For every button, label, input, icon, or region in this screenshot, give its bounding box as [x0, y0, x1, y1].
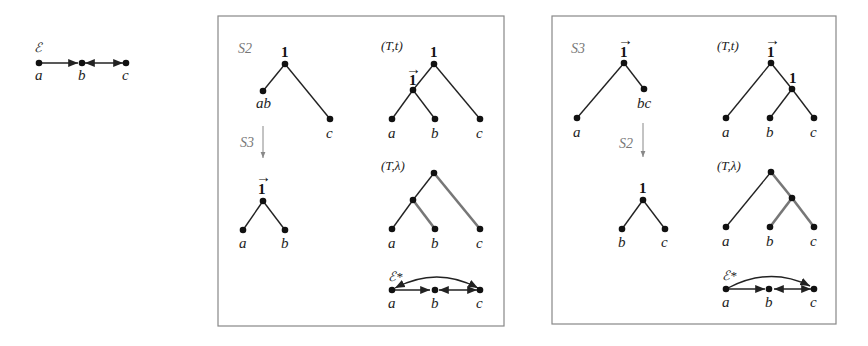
label-a: a [388, 295, 396, 311]
label-c: c [810, 294, 817, 310]
colored-edge-inner-b [413, 200, 435, 229]
edge [726, 63, 771, 118]
label-a: a [722, 233, 730, 249]
tree-inner [410, 197, 417, 204]
stage-label-first: S2 [238, 41, 252, 56]
estar-title: ℰ* [722, 268, 737, 283]
edge [643, 200, 665, 229]
label-bc: bc [637, 95, 652, 111]
label-a: a [722, 294, 730, 310]
graph-e: ℰ a b c [34, 40, 129, 83]
label-b: b [431, 295, 439, 311]
label-c: c [476, 295, 483, 311]
edge [726, 172, 771, 227]
label-c: c [661, 234, 668, 250]
node-b [432, 287, 439, 294]
tt-title: (T,t) [717, 38, 739, 53]
tree-node-a [240, 227, 247, 234]
tree-node-ab [260, 88, 267, 95]
edge [243, 201, 263, 230]
tree-leaf-c [811, 115, 818, 122]
tree-leaf-b [432, 226, 439, 233]
label-a: a [573, 124, 581, 140]
edge [392, 90, 413, 119]
root-label: 1 [281, 44, 289, 60]
label-b: b [766, 233, 774, 249]
label-ab: ab [256, 95, 272, 111]
panel-right-border [552, 16, 836, 324]
edge [624, 63, 644, 89]
tlambda-title: (T,λ) [381, 158, 405, 173]
edge [285, 64, 330, 119]
root-label: 1 [258, 181, 266, 197]
edge [622, 200, 643, 229]
tree-root [431, 61, 438, 68]
tree-node-b [619, 226, 626, 233]
node-b [766, 286, 773, 293]
label-b: b [765, 294, 773, 310]
tree-node-a [574, 115, 581, 122]
tree-node-bc [641, 86, 648, 93]
stage-label-second: S3 [240, 135, 254, 150]
tree-leaf-a [389, 116, 396, 123]
label-a: a [388, 235, 396, 251]
tree-root [260, 198, 267, 205]
node-a [723, 286, 730, 293]
label-b: b [281, 235, 289, 251]
tree-inner [789, 86, 796, 93]
edge [413, 173, 434, 200]
arc-a-c [395, 277, 478, 288]
edge [577, 63, 624, 118]
colored-edge-root-inner [771, 172, 792, 198]
edge [792, 89, 814, 118]
label-a: a [388, 125, 396, 141]
label-c: c [122, 67, 129, 83]
panel-right: S3 → 1 bc a S2 1 b c (T,t) → 1 1 [552, 16, 836, 324]
node-a [36, 60, 43, 67]
label-b: b [78, 67, 86, 83]
tree-leaf-b [767, 115, 774, 122]
tree-leaf-a [723, 224, 730, 231]
label-b: b [431, 235, 439, 251]
estar-title: ℰ* [388, 269, 403, 284]
node-c [477, 287, 484, 294]
tree-root [640, 197, 647, 204]
tt-inner-label: 1 [409, 72, 417, 88]
tree-root [431, 170, 438, 177]
label-c: c [476, 235, 483, 251]
label-c: c [476, 125, 483, 141]
tree-root [282, 61, 289, 68]
stage-label-second: S2 [619, 136, 633, 151]
node-b [79, 60, 86, 67]
tree-inner [789, 195, 796, 202]
tree-leaf-b [432, 116, 439, 123]
edge [413, 90, 435, 119]
edge [392, 200, 413, 229]
label-a: a [35, 67, 43, 83]
edge [263, 64, 285, 91]
edge [263, 201, 285, 230]
tlambda-title: (T,λ) [717, 158, 741, 173]
colored-edge-inner-b [770, 198, 792, 227]
colored-edge-inner-c [792, 198, 814, 227]
node-c [811, 286, 818, 293]
diagram-canvas: ℰ a b c S2 1 ab c S3 → 1 a b [0, 0, 868, 346]
label-c: c [810, 233, 817, 249]
tt-title: (T,t) [381, 38, 403, 53]
label-c: c [326, 125, 333, 141]
label-c: c [810, 124, 817, 140]
label-a: a [722, 124, 730, 140]
tree-leaf-c [811, 224, 818, 231]
tree-node-c [327, 116, 334, 123]
label-b: b [618, 234, 626, 250]
root-label: 1 [639, 180, 647, 196]
tree-leaf-c [477, 116, 484, 123]
tree-leaf-c [477, 226, 484, 233]
tree-root [768, 169, 775, 176]
tree-node-b [282, 227, 289, 234]
tree-leaf-a [389, 226, 396, 233]
label-b: b [431, 125, 439, 141]
tree-leaf-b [767, 224, 774, 231]
tree-root [768, 60, 775, 67]
tree-root [621, 60, 628, 67]
